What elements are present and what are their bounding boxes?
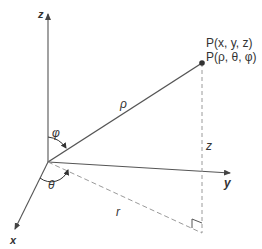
height-label: z bbox=[205, 139, 212, 153]
theta-label: θ bbox=[48, 178, 55, 192]
right-angle-marker bbox=[192, 219, 202, 228]
point-spherical-label: P(ρ, θ, φ) bbox=[206, 50, 257, 64]
phi-label: φ bbox=[52, 126, 60, 140]
spherical-coordinates-diagram: z x y P(x, y, z) P(ρ, θ, φ) ρ z r φ θ bbox=[0, 0, 262, 249]
y-axis-label: y bbox=[223, 176, 232, 190]
point-p bbox=[199, 60, 205, 66]
z-axis-label: z bbox=[37, 8, 44, 20]
x-axis bbox=[15, 162, 48, 229]
point-cartesian-label: P(x, y, z) bbox=[206, 36, 252, 50]
y-axis bbox=[48, 162, 230, 173]
x-axis-label: x bbox=[9, 234, 17, 246]
rho-label: ρ bbox=[119, 97, 127, 111]
r-projection-dashed-line bbox=[48, 162, 202, 233]
rho-segment bbox=[48, 63, 202, 162]
r-label: r bbox=[116, 205, 121, 219]
